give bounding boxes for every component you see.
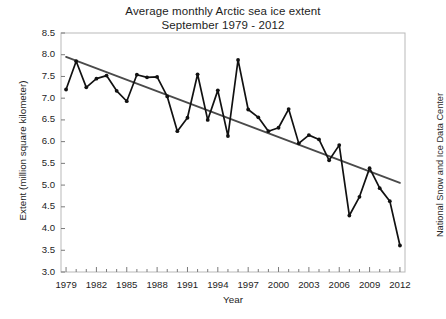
trend-line — [66, 57, 400, 183]
data-point-marker — [256, 115, 260, 119]
data-point-marker — [155, 75, 159, 79]
chart-figure: Average monthly Arctic sea ice extent Se… — [0, 0, 446, 319]
data-point-marker — [297, 141, 301, 145]
data-point-marker — [277, 126, 281, 130]
data-point-marker — [95, 77, 99, 81]
data-point-marker — [307, 133, 311, 137]
data-point-marker — [105, 74, 109, 78]
data-point-marker — [388, 199, 392, 203]
data-point-marker — [64, 88, 68, 92]
data-point-marker — [125, 99, 129, 103]
data-point-marker — [358, 195, 362, 199]
data-point-marker — [378, 186, 382, 190]
data-point-marker — [206, 118, 210, 122]
data-point-marker — [186, 116, 190, 120]
data-point-marker — [337, 143, 341, 147]
data-point-marker — [165, 95, 169, 99]
data-point-marker — [145, 75, 149, 79]
data-point-marker — [267, 129, 271, 133]
data-point-marker — [287, 107, 291, 111]
plot-frame — [61, 33, 405, 272]
plot-area — [0, 0, 446, 319]
data-series-line — [66, 60, 400, 246]
data-point-marker — [347, 214, 351, 218]
data-point-marker — [115, 89, 119, 93]
data-point-marker — [84, 85, 88, 89]
data-point-marker — [236, 58, 240, 62]
data-point-marker — [327, 158, 331, 162]
data-point-marker — [368, 166, 372, 170]
data-point-marker — [196, 72, 200, 76]
data-point-marker — [398, 244, 402, 248]
data-point-marker — [246, 108, 250, 112]
data-point-marker — [216, 88, 220, 92]
data-point-marker — [226, 134, 230, 138]
data-point-marker — [135, 73, 139, 77]
data-point-marker — [175, 129, 179, 133]
data-point-marker — [74, 59, 78, 63]
data-point-marker — [317, 138, 321, 142]
